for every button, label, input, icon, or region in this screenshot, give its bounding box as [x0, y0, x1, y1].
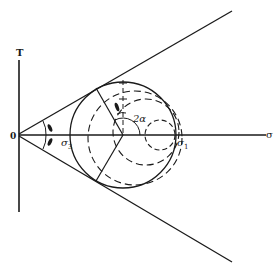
small-angle-arc [117, 113, 126, 114]
mohr-diagram: T 0 σ σ 3 σ 1 2α [0, 0, 275, 269]
upper-envelope [19, 11, 232, 134]
radius-upper [96, 88, 123, 135]
tau-axis-label: T [16, 47, 24, 58]
phi-arc-upper [43, 121, 46, 135]
two-alpha-label: 2α [132, 113, 146, 124]
phi-arc-lower [43, 135, 46, 149]
sigma1-subscript: 1 [184, 143, 188, 151]
radius-lower [96, 135, 123, 181]
sigma-axis-label: σ [266, 129, 273, 140]
origin-label: 0 [10, 131, 16, 141]
sigma3-subscript: 3 [68, 143, 72, 151]
phi-glyph-upper [47, 124, 54, 133]
phi-glyph-center [114, 102, 120, 112]
phi-glyph-lower [47, 138, 54, 147]
lower-envelope [19, 136, 232, 262]
